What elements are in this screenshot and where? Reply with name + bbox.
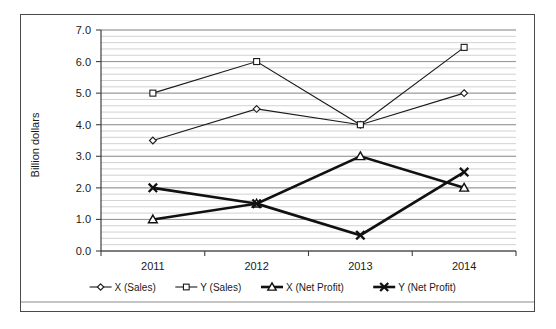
y-axis-tick-label: 0.0 bbox=[76, 245, 91, 257]
y-axis-ticks-group bbox=[96, 30, 101, 251]
legend-item-y-net-profit[interactable]: Y (Net Profit) bbox=[373, 282, 456, 293]
data-point-marker-square-open bbox=[183, 284, 189, 290]
legend-group: X (Sales)Y (Sales)X (Net Profit)Y (Net P… bbox=[90, 282, 456, 293]
x-axis-tick-label: 2011 bbox=[141, 260, 165, 272]
x-axis-tick-label: 2013 bbox=[348, 260, 372, 272]
y-axis-tick-label: 7.0 bbox=[76, 24, 91, 36]
data-point-marker-diamond-open bbox=[97, 284, 103, 290]
series-line bbox=[153, 47, 464, 124]
y-axis-tick-label: 5.0 bbox=[76, 87, 91, 99]
data-point-marker-square-open bbox=[150, 90, 156, 96]
legend-item-y-sales[interactable]: Y (Sales) bbox=[175, 282, 241, 293]
series-y-sales bbox=[150, 44, 467, 127]
y-axis-tick-label: 6.0 bbox=[76, 56, 91, 68]
legend-item-x-net-profit[interactable]: X (Net Profit) bbox=[261, 282, 344, 293]
data-point-marker-diamond-open bbox=[149, 137, 156, 144]
data-point-marker-triangle-open bbox=[356, 152, 365, 160]
x-axis-tick-label: 2012 bbox=[244, 260, 268, 272]
x-axis-ticks-group bbox=[101, 251, 516, 256]
data-point-marker-diamond-open bbox=[253, 106, 260, 113]
data-point-marker-square-open bbox=[461, 44, 467, 50]
legend-label: X (Sales) bbox=[115, 282, 156, 293]
x-axis-tick-labels-group: 2011201220132014 bbox=[141, 260, 476, 272]
y-axis-tick-label: 3.0 bbox=[76, 150, 91, 162]
y-axis-tick-labels-group: 0.01.02.03.04.05.06.07.0 bbox=[76, 24, 91, 257]
legend-label: Y (Sales) bbox=[200, 282, 241, 293]
data-point-marker-square-open bbox=[357, 122, 363, 128]
series-x-sales bbox=[149, 90, 467, 144]
data-point-marker-square-open bbox=[254, 59, 260, 65]
legend-label: X (Net Profit) bbox=[286, 282, 344, 293]
data-point-marker-diamond-open bbox=[461, 90, 468, 97]
y-axis-title: Billion dollars bbox=[29, 112, 41, 177]
legend-item-x-sales[interactable]: X (Sales) bbox=[90, 282, 156, 293]
legend-label: Y (Net Profit) bbox=[398, 282, 456, 293]
series-line bbox=[153, 93, 464, 140]
y-axis-tick-label: 4.0 bbox=[76, 119, 91, 131]
x-axis-tick-label: 2014 bbox=[452, 260, 476, 272]
y-axis-tick-label: 2.0 bbox=[76, 182, 91, 194]
y-axis-tick-label: 1.0 bbox=[76, 213, 91, 225]
line-chart: Billion dollars 0.01.02.03.04.05.06.07.0… bbox=[21, 15, 534, 311]
series-layer bbox=[148, 44, 468, 239]
chart-frame: Billion dollars 0.01.02.03.04.05.06.07.0… bbox=[20, 14, 535, 312]
